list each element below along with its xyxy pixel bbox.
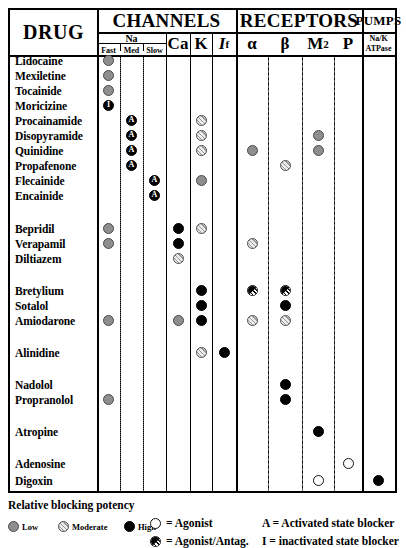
drug-name: Lidocaine — [15, 54, 97, 67]
marker-na_fast-low — [103, 394, 114, 405]
column-divider — [120, 55, 121, 491]
marker-na_med-high: A — [126, 145, 137, 156]
drug-name: Propranolol — [15, 393, 97, 406]
marker-beta-half — [280, 285, 291, 296]
header-drug: DRUG — [10, 10, 97, 55]
marker-k-high — [196, 300, 207, 311]
marker-m2-high — [313, 426, 324, 437]
drug-name: Propafenone — [15, 159, 97, 172]
marker-k-mod — [196, 130, 207, 141]
drug-name: Alinidine — [15, 346, 97, 359]
marker-alpha-mod — [247, 238, 258, 249]
marker-nak-high — [373, 475, 384, 486]
drug-name: Nadolol — [15, 378, 97, 391]
drug-name: Quinidine — [15, 144, 97, 157]
marker-k-low — [196, 175, 207, 186]
marker-alpha-mod — [247, 315, 258, 326]
drug-name: Adenosine — [15, 457, 97, 470]
column-divider — [166, 32, 167, 491]
marker-na_fast-low — [103, 55, 114, 66]
header-pumps: PUMPS — [362, 10, 395, 32]
marker-beta-mod — [280, 160, 291, 171]
column-divider — [143, 55, 144, 491]
drug-name: Verapamil — [15, 237, 97, 250]
marker-p-open — [343, 458, 354, 469]
marker-ca-high — [173, 238, 184, 249]
marker-m2-open — [313, 475, 324, 486]
header-m2-main: M — [307, 34, 323, 54]
row-divider — [97, 32, 395, 34]
marker-na_fast-low — [103, 70, 114, 81]
marker-m2-low — [313, 145, 324, 156]
header-m2-sub: 2 — [323, 38, 329, 50]
marker-alpha-low — [247, 145, 258, 156]
column-divider — [362, 10, 364, 491]
column-divider — [190, 32, 191, 491]
drug-name: Atropine — [15, 425, 97, 438]
column-divider — [302, 55, 303, 491]
header-beta: β — [268, 32, 302, 55]
legend-swatch-high-icon — [124, 521, 135, 532]
drug-name: Procainamide — [15, 114, 97, 127]
header-alpha: α — [236, 32, 268, 55]
header-k: K — [190, 32, 212, 55]
header-p: P — [334, 32, 362, 55]
marker-na_fast-low — [103, 85, 114, 96]
marker-alpha-half — [247, 285, 258, 296]
column-divider — [97, 10, 99, 491]
marker-na_fast-low — [103, 315, 114, 326]
drug-name: Moricizine — [15, 99, 97, 112]
legend-swatch-mod-icon — [58, 521, 69, 532]
legend-symbol-open: = Agonist — [150, 517, 213, 529]
header-if: If — [212, 32, 236, 55]
marker-k-mod — [196, 115, 207, 126]
marker-ca-mod — [173, 253, 184, 264]
drug-name: Disopyramide — [15, 129, 97, 142]
column-divider — [236, 10, 238, 491]
legend-potency-label: Moderate — [72, 522, 107, 532]
drug-name: Diltiazem — [15, 252, 97, 265]
legend-swatch-low-icon — [8, 521, 19, 532]
marker-if-high — [219, 347, 230, 358]
legend-swatch-open-icon — [150, 518, 161, 529]
legend-symbol-label: = Agonist — [166, 517, 213, 529]
marker-na_med-high: A — [126, 130, 137, 141]
marker-k-mod — [196, 223, 207, 234]
column-divider — [120, 43, 121, 51]
antiarrhythmic-drug-table: DRUG CHANNELS RECEPTORS PUMPS Na Fast Me… — [8, 8, 397, 493]
header-nak-atpase: Na/K ATPase — [362, 32, 395, 55]
drug-name: Digoxin — [15, 474, 97, 487]
drug-name: Flecainide — [15, 174, 97, 187]
legend-potency-label: Low — [22, 522, 38, 532]
marker-k-mod — [196, 145, 207, 156]
marker-m2-low — [313, 130, 324, 141]
marker-k-high — [196, 315, 207, 326]
pharmacology-table-page: DRUG CHANNELS RECEPTORS PUMPS Na Fast Me… — [0, 0, 406, 548]
legend-letter-definition: A = Activated state blocker — [262, 517, 394, 529]
drug-name: Amiodarone — [15, 314, 97, 327]
drug-name: Bretylium — [15, 284, 97, 297]
legend: Relative blocking potency LowModerateHig… — [0, 497, 406, 548]
marker-beta-high — [280, 394, 291, 405]
drug-name: Encainide — [15, 189, 97, 202]
legend-letter-definition: I = inactivated state blocker — [262, 535, 399, 547]
column-divider — [212, 32, 213, 491]
marker-beta-high — [280, 300, 291, 311]
header-receptors: RECEPTORS — [236, 10, 362, 32]
legend-potency-low: Low — [8, 521, 38, 532]
marker-beta-mod — [280, 315, 291, 326]
column-divider — [143, 43, 144, 51]
marker-na_fast-high: I — [103, 100, 114, 111]
header-nak-line1: Na/K — [369, 34, 387, 44]
marker-na_fast-low — [103, 238, 114, 249]
header-channels: CHANNELS — [97, 10, 236, 32]
marker-beta-high — [280, 379, 291, 390]
drug-name: Tocainide — [15, 84, 97, 97]
marker-na_slow-high: A — [149, 190, 160, 201]
marker-k-mod — [196, 347, 207, 358]
row-divider — [97, 43, 166, 44]
marker-na_fast-low — [103, 223, 114, 234]
header-nak-line2: ATPase — [365, 44, 391, 54]
legend-potency-title: Relative blocking potency — [8, 499, 135, 511]
marker-na_slow-high: A — [149, 175, 160, 186]
